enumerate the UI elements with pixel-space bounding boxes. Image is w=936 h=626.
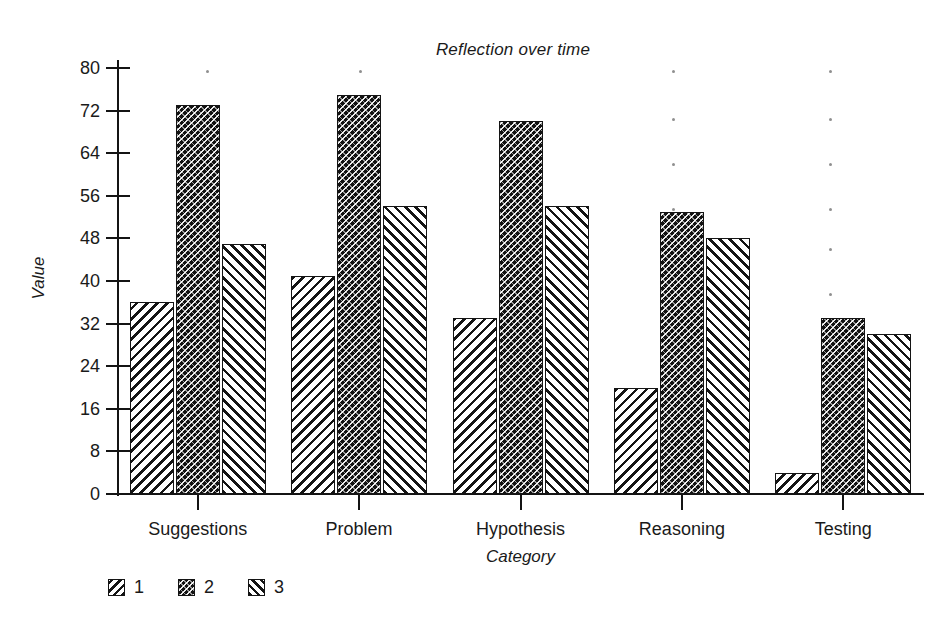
bar-testing-series-1 <box>775 473 819 494</box>
legend-swatch-icon-2 <box>178 579 195 596</box>
bar-suggestions-series-3 <box>222 244 266 494</box>
scan-speckle <box>359 70 362 73</box>
x-axis-tick-label-problem: Problem <box>326 519 393 540</box>
scan-speckle <box>672 118 675 121</box>
scan-speckle <box>206 70 209 73</box>
bar-hypothesis-series-3 <box>545 206 589 494</box>
y-axis-tick-label: 16 <box>54 400 100 418</box>
chart-legend: 123 <box>108 578 284 596</box>
x-axis-tick-label-suggestions: Suggestions <box>148 519 247 540</box>
bar-reasoning-series-1 <box>614 388 658 495</box>
legend-item-2[interactable]: 2 <box>178 578 214 596</box>
y-axis-tick-label: 0 <box>54 485 100 503</box>
y-axis-tick-label: 80 <box>54 59 100 77</box>
legend-swatch-icon-3 <box>248 579 265 596</box>
x-axis-tick <box>520 495 522 510</box>
legend-label: 3 <box>274 578 284 596</box>
legend-item-3[interactable]: 3 <box>248 578 284 596</box>
scan-speckle <box>829 338 832 341</box>
bar-reasoning-series-2 <box>660 212 704 494</box>
plot-area <box>117 68 924 494</box>
legend-label: 1 <box>134 578 144 596</box>
x-axis-tick-label-reasoning: Reasoning <box>639 519 725 540</box>
scan-speckle <box>829 293 832 296</box>
bar-problem-series-2 <box>337 95 381 494</box>
bar-suggestions-series-2 <box>176 105 220 494</box>
bar-hypothesis-series-2 <box>499 121 543 494</box>
x-axis-tick <box>358 495 360 510</box>
x-axis-tick <box>197 495 199 510</box>
y-axis-tick-label: 56 <box>54 187 100 205</box>
bar-testing-series-3 <box>867 334 911 494</box>
y-axis-tick-label: 64 <box>54 144 100 162</box>
x-axis-tick <box>681 495 683 510</box>
y-axis-tick-label: 48 <box>54 229 100 247</box>
scan-speckle <box>829 163 832 166</box>
scan-speckle <box>829 118 832 121</box>
bar-problem-series-3 <box>383 206 427 494</box>
bar-hypothesis-series-1 <box>453 318 497 494</box>
legend-swatch-icon-1 <box>108 579 125 596</box>
scan-speckle <box>829 70 832 73</box>
legend-item-1[interactable]: 1 <box>108 578 144 596</box>
bar-chart-figure: Reflection over time Value 0816243240485… <box>0 0 936 626</box>
x-axis-tick-label-testing: Testing <box>815 519 872 540</box>
y-axis-tick-label: 40 <box>54 272 100 290</box>
bar-suggestions-series-1 <box>130 302 174 494</box>
chart-title: Reflection over time <box>0 40 936 60</box>
bar-reasoning-series-3 <box>706 238 750 494</box>
legend-label: 2 <box>204 578 214 596</box>
scan-speckle <box>672 70 675 73</box>
scan-speckle <box>829 208 832 211</box>
bar-testing-series-2 <box>821 318 865 494</box>
scan-speckle <box>829 248 832 251</box>
x-axis-title: Category <box>117 547 924 567</box>
scan-speckle <box>672 163 675 166</box>
x-axis-tick <box>842 495 844 510</box>
y-axis-tick-label: 72 <box>54 102 100 120</box>
bar-problem-series-1 <box>291 276 335 494</box>
x-axis-tick-label-hypothesis: Hypothesis <box>476 519 565 540</box>
scan-speckle <box>829 383 832 386</box>
scan-speckle <box>672 208 675 211</box>
y-axis-tick-label: 24 <box>54 357 100 375</box>
y-axis-tick-labels: 08162432404856647280 <box>0 0 100 626</box>
y-axis-tick-label: 32 <box>54 315 100 333</box>
y-axis-tick-label: 8 <box>54 442 100 460</box>
